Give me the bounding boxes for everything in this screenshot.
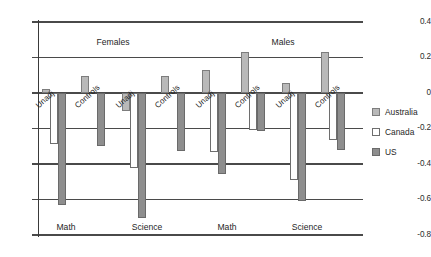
legend-swatch-us — [372, 148, 380, 156]
bar-us-females-science-unadj — [138, 93, 146, 218]
category-label-science-1: Science — [117, 222, 177, 232]
bar-chart: 0.40.20-0.2-0.4-0.6-0.8 UnadjControlsUna… — [0, 0, 431, 257]
bar-us-males-science-unadj — [298, 93, 306, 201]
y-tick-label: 0 — [401, 89, 431, 97]
legend-swatch-australia — [372, 108, 380, 116]
legend-label-canada: Canada — [385, 128, 414, 137]
bar-canada-males-science-controls — [329, 93, 337, 140]
legend-swatch-canada — [372, 128, 380, 136]
y-tick-label: 0.4 — [401, 18, 431, 26]
y-tick-label: -0.6 — [401, 195, 431, 203]
y-tick-label: 0.2 — [401, 53, 431, 61]
bar-canada-females-math-unadj — [50, 93, 58, 144]
bar-australia-males-math-controls — [241, 52, 249, 93]
bar-us-females-math-unadj — [58, 93, 66, 205]
legend-item-canada[interactable]: Canada — [372, 124, 430, 140]
bars-layer — [38, 22, 363, 235]
bar-us-males-science-controls — [337, 93, 345, 150]
category-label-science-3: Science — [277, 222, 337, 232]
category-label-math-0: Math — [36, 222, 96, 232]
legend: AustraliaCanadaUS — [372, 104, 430, 164]
bar-us-females-math-controls — [97, 93, 105, 146]
category-label-math-2: Math — [197, 222, 257, 232]
legend-item-australia[interactable]: Australia — [372, 104, 430, 120]
bar-us-females-science-controls — [177, 93, 185, 151]
bar-us-males-math-unadj — [218, 93, 226, 174]
bar-canada-males-math-unadj — [210, 93, 218, 152]
bar-canada-females-science-unadj — [130, 93, 138, 168]
legend-label-australia: Australia — [385, 108, 418, 117]
legend-label-us: US — [385, 148, 397, 157]
bar-australia-males-science-controls — [321, 52, 329, 93]
y-tick-label: -0.8 — [401, 231, 431, 239]
legend-item-us[interactable]: US — [372, 144, 430, 160]
panel-label-females: Females — [78, 37, 148, 47]
bar-canada-males-science-unadj — [290, 93, 298, 180]
bar-us-males-math-controls — [257, 93, 265, 131]
panel-label-males: Males — [248, 37, 318, 47]
